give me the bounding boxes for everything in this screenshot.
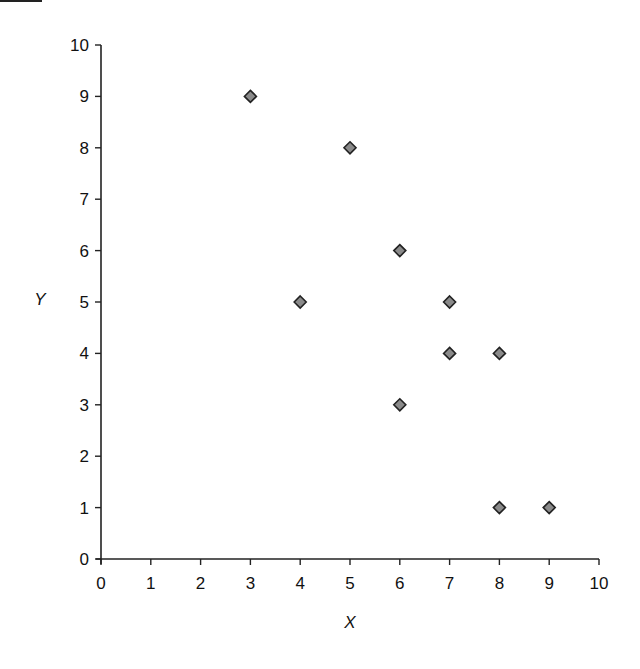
- x-tick-label: 3: [246, 574, 255, 593]
- y-tick-label: 6: [80, 242, 89, 261]
- y-tick-label: 8: [80, 139, 89, 158]
- y-tick-label: 9: [80, 87, 89, 106]
- x-axis-label: X: [343, 613, 356, 632]
- y-tick-label: 3: [80, 396, 89, 415]
- data-points: [244, 90, 555, 513]
- y-tick-label: 5: [80, 293, 89, 312]
- x-tick-label: 5: [345, 574, 354, 593]
- x-axis-ticks: 012345678910: [96, 559, 608, 593]
- y-tick-label: 4: [80, 344, 89, 363]
- scatter-chart: 012345678910 012345678910 X Y: [0, 0, 640, 669]
- x-tick-label: 10: [590, 574, 609, 593]
- diamond-marker: [394, 245, 406, 257]
- diamond-marker: [394, 399, 406, 411]
- x-tick-label: 8: [495, 574, 504, 593]
- x-tick-label: 0: [96, 574, 105, 593]
- y-tick-label: 0: [80, 550, 89, 569]
- x-tick-label: 2: [196, 574, 205, 593]
- diamond-marker: [244, 90, 256, 102]
- y-tick-label: 1: [80, 499, 89, 518]
- axes: [96, 45, 599, 564]
- y-tick-label: 2: [80, 447, 89, 466]
- y-tick-label: 7: [80, 190, 89, 209]
- y-axis-ticks: 012345678910: [70, 36, 101, 569]
- diamond-marker: [444, 296, 456, 308]
- y-tick-label: 10: [70, 36, 89, 55]
- diamond-marker: [493, 347, 505, 359]
- diamond-marker: [444, 347, 456, 359]
- diamond-marker: [493, 502, 505, 514]
- diamond-marker: [543, 502, 555, 514]
- x-tick-label: 6: [395, 574, 404, 593]
- x-tick-label: 1: [146, 574, 155, 593]
- diamond-marker: [294, 296, 306, 308]
- x-tick-label: 7: [445, 574, 454, 593]
- x-tick-label: 9: [544, 574, 553, 593]
- diamond-marker: [344, 142, 356, 154]
- x-tick-label: 4: [295, 574, 304, 593]
- y-axis-label: Y: [34, 290, 47, 309]
